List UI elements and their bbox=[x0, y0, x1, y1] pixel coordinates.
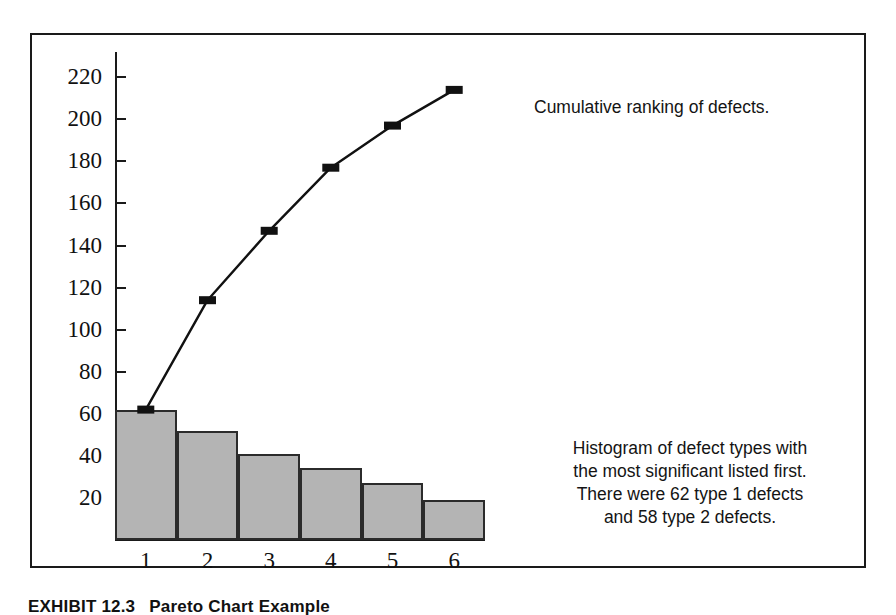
y-tick-100 bbox=[117, 329, 126, 331]
annotation-histogram-line-2: the most significant listed first. bbox=[525, 460, 855, 483]
y-tick-80 bbox=[117, 371, 126, 373]
x-tick-label-4: 4 bbox=[311, 548, 351, 574]
x-tick-label-1: 1 bbox=[126, 548, 166, 574]
y-tick-label-100: 100 bbox=[46, 318, 102, 341]
annotation-cumulative: Cumulative ranking of defects. bbox=[534, 96, 854, 119]
y-tick-140 bbox=[117, 245, 126, 247]
y-tick-160 bbox=[117, 202, 126, 204]
y-tick-200 bbox=[117, 118, 126, 120]
y-tick-220 bbox=[117, 76, 126, 78]
pareto-chart-figure: 20406080100120140160180200220 123456 Cum… bbox=[0, 0, 896, 615]
x-tick-label-5: 5 bbox=[373, 548, 413, 574]
x-tick-label-6: 6 bbox=[434, 548, 474, 574]
bar-6 bbox=[423, 500, 485, 540]
y-tick-label-120: 120 bbox=[46, 276, 102, 299]
x-tick-label-2: 2 bbox=[188, 548, 228, 574]
y-tick-label-20: 20 bbox=[46, 486, 102, 509]
y-tick-label-40: 40 bbox=[46, 444, 102, 467]
y-tick-label-160: 160 bbox=[46, 191, 102, 214]
annotation-histogram-line-1: Histogram of defect types with bbox=[525, 437, 855, 460]
figure-caption: EXHIBIT 12.3Pareto Chart Example bbox=[28, 597, 728, 615]
y-tick-label-180: 180 bbox=[46, 149, 102, 172]
y-axis-tick-labels: 20406080100120140160180200220 bbox=[46, 0, 102, 615]
annotation-histogram-line-3: There were 62 type 1 defects bbox=[525, 483, 855, 506]
x-tick-label-3: 3 bbox=[249, 548, 289, 574]
annotation-histogram: Histogram of defect types withthe most s… bbox=[525, 437, 855, 529]
y-tick-label-220: 220 bbox=[46, 65, 102, 88]
y-tick-label-80: 80 bbox=[46, 360, 102, 383]
bar-4 bbox=[300, 468, 362, 540]
bar-2 bbox=[177, 431, 239, 540]
caption-text: Pareto Chart Example bbox=[149, 597, 330, 615]
bar-1 bbox=[115, 410, 177, 540]
annotation-histogram-line-4: and 58 type 2 defects. bbox=[525, 506, 855, 529]
bar-3 bbox=[238, 454, 300, 540]
caption-label: EXHIBIT 12.3 bbox=[28, 597, 135, 615]
y-tick-120 bbox=[117, 287, 126, 289]
y-tick-label-200: 200 bbox=[46, 107, 102, 130]
annotation-cumulative-line-1: Cumulative ranking of defects. bbox=[534, 96, 854, 119]
y-tick-label-140: 140 bbox=[46, 234, 102, 257]
y-tick-180 bbox=[117, 160, 126, 162]
y-tick-label-60: 60 bbox=[46, 402, 102, 425]
bar-5 bbox=[362, 483, 424, 540]
